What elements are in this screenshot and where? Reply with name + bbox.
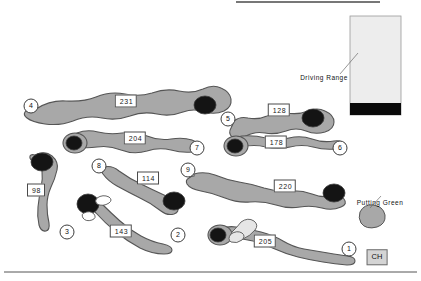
yardage-label-hole-1[interactable]: 205 <box>254 235 276 248</box>
golf-course-map: 231 128 204 178 114 98 220 143 205 4 5 7… <box>0 0 421 281</box>
yardage-label-hole-5[interactable]: 128 <box>268 104 290 117</box>
hole-3-green <box>31 153 53 171</box>
driving-range-tee-band <box>350 103 401 115</box>
hole-marker-4[interactable]: 4 <box>24 99 39 114</box>
hole-marker-5[interactable]: 5 <box>221 112 236 127</box>
hole-marker-3[interactable]: 3 <box>60 225 75 240</box>
hole-6-green <box>227 139 243 153</box>
hole-8-green <box>163 192 185 210</box>
hole-1-shape[interactable] <box>208 219 355 265</box>
hole-marker-9[interactable]: 9 <box>181 163 196 178</box>
hole-4-green <box>194 96 216 114</box>
putting-green-label: Putting Green <box>357 199 404 206</box>
hole-5-green <box>302 109 324 127</box>
hole-marker-8[interactable]: 8 <box>92 159 107 174</box>
hole-2-green <box>77 194 99 214</box>
yardage-label-hole-4[interactable]: 231 <box>115 95 137 108</box>
hole-9-shape[interactable] <box>186 173 345 210</box>
driving-range-label: Driving Range <box>300 74 348 81</box>
yardage-label-hole-2[interactable]: 143 <box>110 225 132 238</box>
hole-1-bunker-secondary <box>229 232 244 243</box>
yardage-label-hole-7[interactable]: 204 <box>124 132 146 145</box>
hole-marker-6[interactable]: 6 <box>333 141 348 156</box>
hole-2-bunker-lower <box>82 212 95 221</box>
driving-range-area <box>350 16 401 115</box>
driving-range-feature[interactable] <box>350 16 401 115</box>
hole-marker-1[interactable]: 1 <box>342 242 357 257</box>
hole-1-green <box>210 228 226 242</box>
hole-marker-7[interactable]: 7 <box>190 141 205 156</box>
hole-9-green <box>323 184 345 202</box>
hole-2-bunker-upper <box>96 196 112 206</box>
yardage-label-hole-8[interactable]: 114 <box>137 172 159 185</box>
yardage-label-hole-6[interactable]: 178 <box>265 136 287 149</box>
yardage-label-hole-9[interactable]: 220 <box>274 180 296 193</box>
putting-green-area[interactable] <box>359 205 385 228</box>
clubhouse-marker[interactable]: CH <box>367 249 388 265</box>
hole-7-green <box>66 136 82 150</box>
hole-marker-2[interactable]: 2 <box>171 228 186 243</box>
hole-9-fairway <box>186 173 345 210</box>
yardage-label-hole-3[interactable]: 98 <box>27 184 45 197</box>
